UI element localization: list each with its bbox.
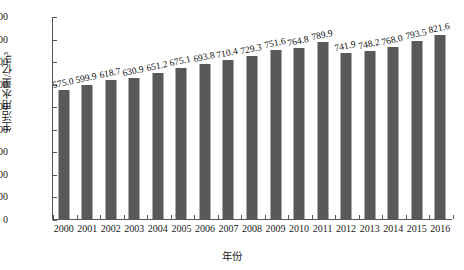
- bar-group: 793.5: [405, 17, 429, 220]
- x-axis-tick-label: 2003: [123, 223, 147, 235]
- y-axis-tick-label: 0: [0, 215, 8, 225]
- bar-series: 575.0599.9618.7630.9651.2675.1693.8710.4…: [52, 17, 452, 220]
- y-axis-tick-label: 100: [0, 192, 8, 202]
- bar-value-label: 651.2: [145, 59, 168, 73]
- bar: [294, 48, 305, 221]
- x-axis-tick-label: 2005: [170, 223, 194, 235]
- x-axis-tick-label: 2012: [334, 223, 358, 235]
- x-axis-tick: [453, 215, 454, 219]
- bar-value-label: 599.9: [75, 71, 98, 85]
- bar-value-label: 710.4: [216, 46, 239, 60]
- bar-value-label: 768.0: [381, 33, 404, 47]
- bar: [199, 64, 210, 220]
- bar-group: 768.0: [381, 17, 405, 220]
- bar-group: 741.9: [334, 17, 358, 220]
- x-axis-tick-label: 2011: [311, 223, 335, 235]
- bar-group: 630.9: [123, 17, 147, 220]
- bar: [341, 53, 352, 220]
- x-axis-tick-label: 2016: [428, 223, 452, 235]
- bar-value-label: 618.7: [98, 66, 121, 80]
- x-axis-tick-label: 2014: [381, 223, 405, 235]
- y-axis-tick-label: 600: [0, 80, 8, 90]
- bar-group: 821.6: [428, 17, 452, 220]
- bar-value-label: 575.0: [51, 76, 74, 90]
- bar: [364, 51, 375, 220]
- bar-value-label: 751.6: [263, 36, 286, 50]
- x-axis-tick-label: 2007: [217, 223, 241, 235]
- bar-value-label: 821.6: [428, 21, 451, 35]
- bar-group: 675.1: [170, 17, 194, 220]
- y-axis-tick: [53, 220, 57, 221]
- y-axis-tick-label: 200: [0, 170, 8, 180]
- bar-value-label: 729.3: [239, 42, 262, 56]
- bar-group: 651.2: [146, 17, 170, 220]
- bar-group: 729.3: [240, 17, 264, 220]
- y-axis-tick-label: 300: [0, 147, 8, 157]
- bar-group: 789.9: [311, 17, 335, 220]
- bar-group: 748.2: [358, 17, 382, 220]
- bar-group: 575.0: [52, 17, 76, 220]
- bar-value-label: 793.5: [404, 27, 427, 41]
- bar-group: 751.6: [264, 17, 288, 220]
- bar-value-label: 764.8: [286, 33, 309, 47]
- bar: [388, 47, 399, 220]
- y-axis-tick-label: 800: [0, 35, 8, 45]
- bar: [105, 80, 116, 220]
- bar-value-label: 630.9: [122, 64, 145, 78]
- x-axis-tick-label: 2009: [264, 223, 288, 235]
- bar-group: 693.8: [193, 17, 217, 220]
- bar-chart: 生活用水量/亿m³ 0100200300400500600700800900 5…: [0, 0, 464, 270]
- bar: [176, 68, 187, 220]
- y-axis-tick-label: 500: [0, 102, 8, 112]
- bar-group: 764.8: [287, 17, 311, 220]
- bar: [411, 41, 422, 220]
- bar: [223, 60, 234, 220]
- bar-value-label: 741.9: [334, 39, 357, 53]
- bar: [58, 90, 69, 220]
- bar: [152, 73, 163, 220]
- y-axis-tick-label: 700: [0, 57, 8, 67]
- bar-group: 710.4: [217, 17, 241, 220]
- bar: [246, 56, 257, 220]
- x-axis-tick-label: 2006: [193, 223, 217, 235]
- y-axis-tick-label: 400: [0, 125, 8, 135]
- x-axis-tick-label: 2001: [76, 223, 100, 235]
- bar-group: 618.7: [99, 17, 123, 220]
- x-axis-title: 年份: [0, 248, 464, 263]
- x-axis-tick-label: 2002: [99, 223, 123, 235]
- bar: [270, 50, 281, 220]
- bar: [435, 35, 446, 220]
- bar-value-label: 693.8: [192, 50, 215, 64]
- x-axis-tick-label: 2004: [146, 223, 170, 235]
- x-axis-tick-label: 2000: [52, 223, 76, 235]
- x-axis-tick-label: 2010: [287, 223, 311, 235]
- x-axis-tick-label: 2013: [358, 223, 382, 235]
- y-axis-tick-label: 900: [0, 12, 8, 22]
- bar: [129, 78, 140, 220]
- bar-value-label: 675.1: [169, 54, 192, 68]
- x-axis-tick-label: 2008: [240, 223, 264, 235]
- x-axis-tick-labels: 2000200120022003200420052006200720082009…: [52, 223, 452, 241]
- x-axis-tick-label: 2015: [405, 223, 429, 235]
- bar-value-label: 748.2: [357, 37, 380, 51]
- bar: [317, 42, 328, 220]
- bar-group: 599.9: [76, 17, 100, 220]
- bar-value-label: 789.9: [310, 28, 333, 42]
- bar: [82, 85, 93, 220]
